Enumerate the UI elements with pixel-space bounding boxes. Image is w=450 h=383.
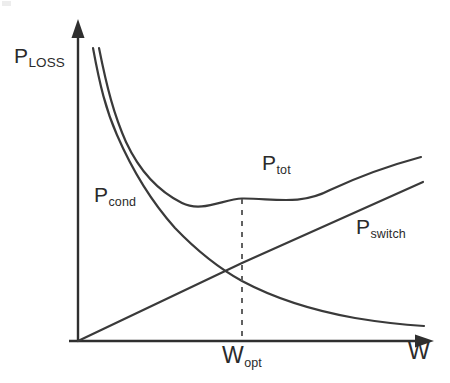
y-axis-label-base: P xyxy=(14,44,28,67)
curve-label-p-switch: Pswitch xyxy=(356,216,405,237)
loss-vs-width-figure: PLOSS Pcond Ptot Pswitch Wopt W xyxy=(0,0,450,383)
x-axis-tick-label-wopt-base: W xyxy=(222,342,244,368)
curve-p-tot xyxy=(99,48,421,207)
y-axis-label-subscript: LOSS xyxy=(29,55,65,70)
x-axis-tick-label-wopt-subscript: opt xyxy=(244,356,262,370)
curve-label-p-tot-base: P xyxy=(262,151,276,174)
y-axis xyxy=(72,19,85,341)
x-axis-tick-label-wopt: Wopt xyxy=(222,344,261,367)
curve-label-p-tot-subscript: tot xyxy=(277,163,291,177)
curve-label-p-switch-subscript: switch xyxy=(371,227,406,241)
curve-label-p-switch-base: P xyxy=(356,215,370,238)
x-axis-label-base: W xyxy=(408,338,430,364)
y-axis-label: PLOSS xyxy=(14,45,64,66)
y-axis-arrowhead xyxy=(72,19,85,38)
x-axis-label: W xyxy=(408,340,430,363)
plot-canvas xyxy=(0,0,450,383)
curve-label-p-cond: Pcond xyxy=(94,184,136,205)
curve-label-p-cond-subscript: cond xyxy=(109,195,137,209)
curve-label-p-cond-base: P xyxy=(94,183,108,206)
curve-p-cond xyxy=(93,48,424,326)
curve-label-p-tot: Ptot xyxy=(262,152,290,173)
